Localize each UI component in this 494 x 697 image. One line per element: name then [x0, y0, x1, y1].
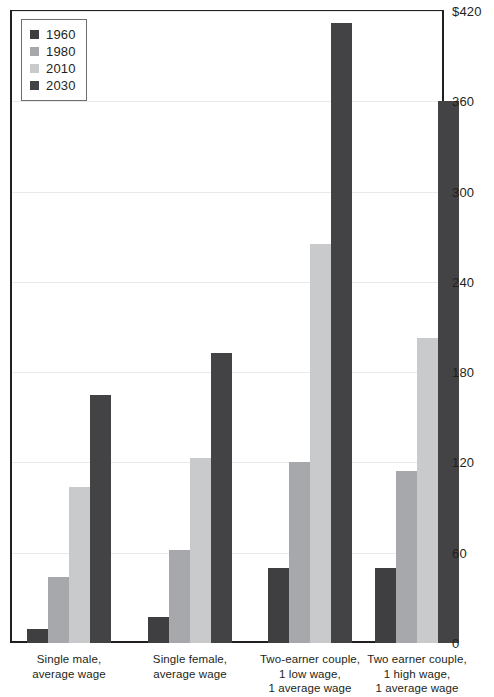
category-label-line: average wage: [0, 667, 139, 682]
bar-1960-group-1: [27, 629, 48, 643]
category-label-4: Two earner couple,1 high wage,1 average …: [347, 652, 487, 696]
legend-label-1960: 1960: [46, 28, 76, 41]
category-label-2: Single female,average wage: [120, 652, 260, 681]
y-tick-180: 180: [452, 366, 474, 379]
category-label-line: Two earner couple,: [347, 652, 487, 667]
legend-label-1980: 1980: [46, 45, 76, 58]
legend-swatch-2030: [30, 81, 39, 90]
bar-1960-group-4: [375, 568, 396, 643]
legend-item: 1980: [30, 43, 76, 60]
category-label-line: Single male,: [0, 652, 139, 667]
y-tick-420: $420: [452, 5, 482, 18]
legend-swatch-1960: [30, 30, 39, 39]
bar-1980-group-3: [289, 462, 310, 643]
legend-swatch-2010: [30, 64, 39, 73]
category-label-line: 1 average wage: [347, 681, 487, 696]
category-label-line: Single female,: [120, 652, 260, 667]
plot-inner: [12, 12, 442, 641]
y-tick-0: 0: [452, 637, 459, 650]
bar-1980-group-2: [169, 550, 190, 643]
gridline: [12, 192, 442, 193]
bar-2010-group-3: [310, 244, 331, 643]
legend-label-2010: 2010: [46, 62, 76, 75]
legend-item: 2030: [30, 77, 76, 94]
category-label-line: average wage: [120, 667, 260, 682]
y-tick-300: 300: [452, 186, 474, 199]
y-tick-240: 240: [452, 276, 474, 289]
category-label-1: Single male,average wage: [0, 652, 139, 681]
plot-area: [10, 10, 444, 643]
legend: 1960 1980 2010 2030: [21, 19, 87, 101]
category-label-line: 1 high wage,: [347, 667, 487, 682]
bar-2010-group-2: [190, 458, 211, 643]
legend-swatch-1980: [30, 47, 39, 56]
y-tick-360: 360: [452, 95, 474, 108]
y-tick-120: 120: [452, 456, 474, 469]
bar-1960-group-2: [148, 617, 169, 643]
legend-item: 2010: [30, 60, 76, 77]
bar-2010-group-1: [69, 487, 90, 643]
bar-1980-group-1: [48, 577, 69, 643]
bar-2030-group-1: [90, 395, 111, 643]
gridline: [12, 11, 442, 12]
legend-label-2030: 2030: [46, 79, 76, 92]
gridline: [12, 101, 442, 102]
bar-2030-group-2: [211, 353, 232, 643]
gridline: [12, 282, 442, 283]
bar-2030-group-3: [331, 23, 352, 643]
bar-1960-group-3: [268, 568, 289, 643]
bar-chart: $420360300240180120600 1960 1980 2010 20…: [0, 0, 494, 697]
y-tick-60: 60: [452, 547, 467, 560]
bar-1980-group-4: [396, 471, 417, 643]
legend-item: 1960: [30, 26, 76, 43]
bar-2010-group-4: [417, 338, 438, 643]
